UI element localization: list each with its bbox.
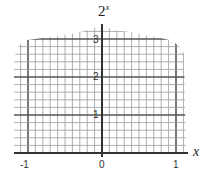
y-tick-1: 1 bbox=[93, 109, 99, 120]
x-tick-1: 1 bbox=[173, 159, 179, 170]
x-tick-0: 0 bbox=[99, 159, 105, 170]
title-exponent: x bbox=[106, 2, 110, 12]
x-axis-label: x bbox=[193, 144, 199, 160]
y-tick-3: 3 bbox=[93, 34, 99, 45]
x-tick-neg1: -1 bbox=[20, 159, 29, 170]
graph-paper bbox=[0, 0, 213, 183]
chart-title: 2x bbox=[98, 2, 110, 20]
title-base: 2 bbox=[98, 3, 106, 19]
y-tick-2: 2 bbox=[93, 71, 99, 82]
